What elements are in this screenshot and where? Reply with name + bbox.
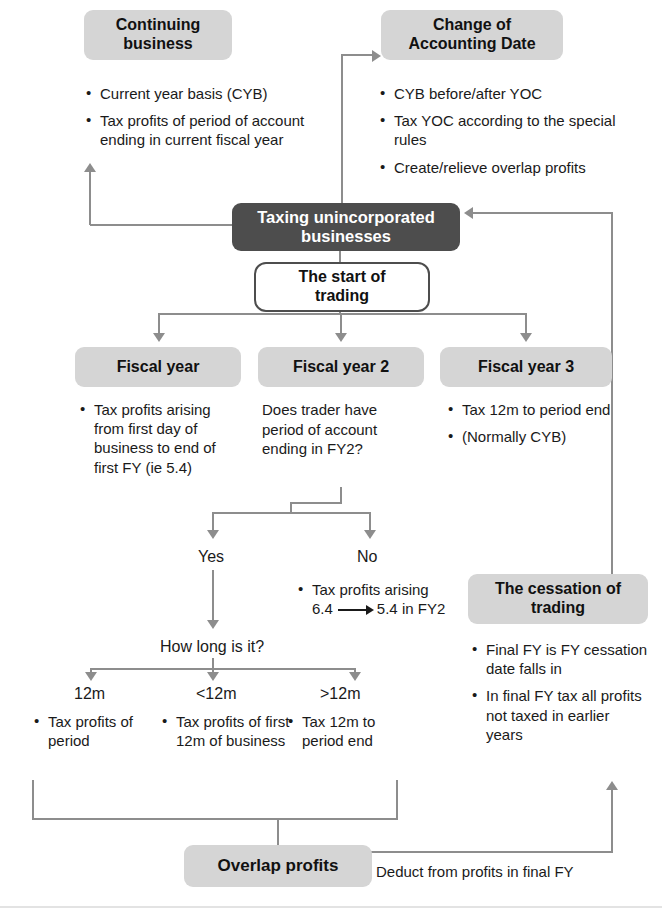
edge-fan-to-fy3 <box>525 313 527 335</box>
diagram-canvas: Continuing business Current year basis (… <box>0 0 662 916</box>
no-bullet-from: 6.4 <box>312 600 333 617</box>
duration-2-bullets: Tax 12m to period end <box>286 712 408 758</box>
edge-fan-to-fy3-arrowhead <box>520 333 532 342</box>
central-title-line2: businesses <box>301 227 391 245</box>
edge-cessation-to-central-horizontal <box>473 212 613 214</box>
edge-central-to-change-vertical <box>341 54 343 204</box>
change-of-accounting-date-title-line2: Accounting Date <box>408 35 535 52</box>
node-taxing-unincorporated-businesses: Taxing unincorporated businesses <box>232 203 460 251</box>
how-long-text: How long is it? <box>160 638 264 655</box>
list-item: Tax profits of period of account ending … <box>84 111 320 149</box>
list-item: Tax 12m to period end <box>286 712 408 750</box>
cessation-of-trading-bullets: Final FY is FY cessation date falls in I… <box>470 640 648 752</box>
fiscal-year-2-question: Does trader have period of account endin… <box>262 400 412 459</box>
edge-duration-fan-horizontal <box>90 668 355 670</box>
edge-cessation-to-central-arrowhead <box>464 207 473 219</box>
edge-yes-to-howlong-arrowhead <box>207 620 219 629</box>
change-of-accounting-date-title-line1: Change of <box>433 16 511 33</box>
edge-yes-no-fan-horizontal <box>212 512 371 514</box>
edge-merge-to-overlap <box>277 818 279 846</box>
list-item: (Normally CYB) <box>446 427 616 446</box>
edge-fan-to-yes-arrowhead <box>207 530 219 539</box>
edge-fan-to-fy1 <box>158 313 160 335</box>
continuing-business-title-line1: Continuing <box>116 16 200 33</box>
node-overlap-profits: Overlap profits <box>184 845 372 887</box>
edge-12m-merge-vertical <box>32 780 34 820</box>
list-item: Current year basis (CYB) <box>84 84 320 103</box>
edge-fy2-step-horizontal <box>290 502 342 504</box>
overlap-profits-title: Overlap profits <box>218 856 339 876</box>
list-item: In final FY tax all profits not taxed in… <box>470 686 648 744</box>
branch-label-how-long: How long is it? <box>160 637 264 656</box>
node-continuing-business: Continuing business <box>84 10 232 60</box>
edge-overlap-to-cessation-vertical <box>611 790 613 852</box>
branch-label-yes: Yes <box>198 547 224 566</box>
branch-no-text: No <box>357 548 377 565</box>
list-item: CYB before/after YOC <box>378 84 640 103</box>
deduct-label-text: Deduct from profits in final FY <box>376 863 574 880</box>
start-of-trading-title-line1: The start of <box>298 268 385 285</box>
list-item: Tax YOC according to the special rules <box>378 111 640 149</box>
edge-central-to-continuing-arrowhead <box>84 163 96 172</box>
duration-2-text: >12m <box>320 685 360 702</box>
page-footer-rule <box>0 906 662 908</box>
list-item: Tax 12m to period end <box>446 400 616 419</box>
no-bullet-prefix: Tax profits arising <box>312 581 429 598</box>
cessation-title-line1: The cessation of <box>495 580 621 597</box>
fiscal-year-1-title: Fiscal year <box>117 358 200 377</box>
no-bullet-to: 5.4 in FY2 <box>377 600 445 617</box>
node-start-of-trading: The start of trading <box>254 262 430 312</box>
node-fiscal-year-1: Fiscal year <box>75 347 241 387</box>
list-item: Tax profits arising from first day of bu… <box>78 400 230 477</box>
edge-fan-to-fy2 <box>340 313 342 335</box>
edge-fiscal-fan-horizontal <box>159 313 526 315</box>
fiscal-year-3-title: Fiscal year 3 <box>478 358 574 377</box>
right-arrow-icon <box>338 609 372 611</box>
continuing-business-bullets: Current year basis (CYB) Tax profits of … <box>84 84 320 158</box>
duration-1-text: <12m <box>196 685 236 702</box>
edge-cessation-to-central-vertical <box>611 212 613 576</box>
list-item: Create/relieve overlap profits <box>378 158 640 177</box>
central-title-line1: Taxing unincorporated <box>257 208 435 226</box>
edge-yes-to-howlong <box>212 570 214 622</box>
duration-0-text: 12m <box>74 685 105 702</box>
duration-label-gt12m: >12m <box>320 684 360 703</box>
edge-fan-to-fy1-arrowhead <box>153 333 165 342</box>
overlap-to-cessation-edge-label: Deduct from profits in final FY <box>376 862 574 882</box>
cessation-title-line2: trading <box>531 599 585 616</box>
branch-label-no: No <box>357 547 377 566</box>
edge-fan-to-lt12m-arrowhead <box>207 672 219 681</box>
list-item: Tax profits of period <box>32 712 162 750</box>
edge-fan-to-yes <box>212 512 214 532</box>
duration-1-bullets: Tax profits of first 12m of business <box>160 712 290 758</box>
list-item: Tax profits of first 12m of business <box>160 712 290 750</box>
fiscal-year-2-question-text: Does trader have period of account endin… <box>262 401 377 457</box>
node-fiscal-year-2: Fiscal year 2 <box>258 347 424 387</box>
start-of-trading-title-line2: trading <box>315 287 369 304</box>
list-item: Final FY is FY cessation date falls in <box>470 640 648 678</box>
continuing-business-title-line2: business <box>123 35 192 52</box>
edge-overlap-to-cessation-horizontal <box>370 851 613 853</box>
list-item: Tax profits arising 6.45.4 in FY2 <box>296 580 486 618</box>
edge-fan-to-no <box>369 512 371 532</box>
node-change-of-accounting-date: Change of Accounting Date <box>381 10 563 60</box>
edge-central-to-continuing-vertical <box>89 172 91 225</box>
node-cessation-of-trading: The cessation of trading <box>468 574 648 624</box>
edge-fan-to-fy2-arrowhead <box>335 333 347 342</box>
edge-fan-to-gt12m-arrowhead <box>349 672 361 681</box>
fiscal-year-1-bullets: Tax profits arising from first day of bu… <box>78 400 230 485</box>
duration-label-12m: 12m <box>74 684 105 703</box>
duration-0-bullets: Tax profits of period <box>32 712 162 758</box>
fiscal-year-3-bullets: Tax 12m to period end (Normally CYB) <box>446 400 616 454</box>
edge-overlap-to-cessation-arrowhead <box>606 781 618 790</box>
edge-fan-to-no-arrowhead <box>364 530 376 539</box>
edge-central-to-continuing-horizontal <box>90 224 234 226</box>
node-fiscal-year-3: Fiscal year 3 <box>440 347 612 387</box>
edge-central-to-change-horizontal <box>341 54 374 56</box>
branch-no-bullets: Tax profits arising 6.45.4 in FY2 <box>296 580 486 626</box>
edge-central-to-change-arrowhead <box>372 50 381 62</box>
duration-label-lt12m: <12m <box>196 684 236 703</box>
edge-fan-to-12m-arrowhead <box>85 672 97 681</box>
branch-yes-text: Yes <box>198 548 224 565</box>
edge-merge-horizontal <box>32 818 398 820</box>
